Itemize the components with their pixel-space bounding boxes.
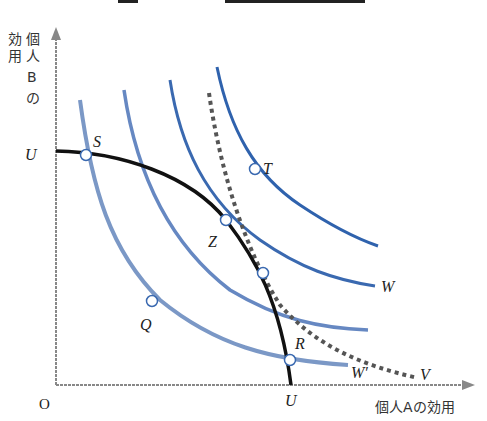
axes — [51, 27, 475, 390]
y-axis-arrow-icon — [51, 27, 61, 40]
label-w-prime: W′ — [351, 364, 368, 381]
indifference-curve-2 — [124, 90, 368, 330]
label-q: Q — [140, 316, 152, 333]
label-w: W — [381, 278, 396, 295]
point-z — [221, 215, 232, 226]
social-welfare-diagram: U S T Z Q R W W′ V U O 個人Aの効用 効用 個人Bの — [0, 0, 487, 421]
label-s: S — [93, 133, 101, 150]
x-axis-label: 個人Aの効用 — [375, 399, 455, 415]
title-fragment — [118, 0, 138, 3]
x-axis-arrow-icon — [462, 380, 475, 390]
origin-label: O — [39, 396, 50, 412]
label-z: Z — [208, 233, 218, 250]
point-q — [147, 296, 158, 307]
label-u-top: U — [25, 146, 38, 163]
title-fragment — [225, 0, 365, 3]
point-unnamed — [258, 268, 269, 279]
label-v: V — [420, 366, 432, 383]
label-t: T — [263, 160, 273, 177]
label-u-bottom: U — [285, 392, 298, 409]
point-t — [250, 164, 261, 175]
y-axis-label-col1: 効用 — [8, 31, 22, 64]
label-r: R — [294, 335, 305, 352]
y-axis-label-col2: 個人Bの — [26, 31, 40, 106]
point-s — [81, 150, 92, 161]
point-r — [285, 355, 296, 366]
